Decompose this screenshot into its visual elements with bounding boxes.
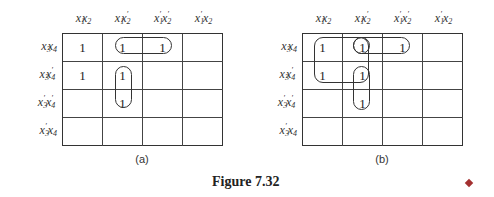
- col-header-1: x1x2′: [102, 10, 142, 26]
- subfigure-label-b: (b): [362, 153, 402, 165]
- col-header-2: x1′x2′: [142, 10, 182, 26]
- cell: [423, 62, 463, 90]
- cell: [143, 118, 183, 146]
- col-header-3: x1′x2: [422, 10, 462, 26]
- cell: 1: [63, 62, 103, 90]
- cell: [63, 90, 103, 118]
- col-header-0: x1x2: [62, 10, 102, 26]
- col-header-1: x1x2′: [342, 10, 382, 26]
- subfigure-label-a: (a): [122, 153, 162, 165]
- row-header-1: x3x4′: [254, 66, 294, 82]
- grouping-loop-single: [353, 37, 370, 54]
- grouping-loop-vertical: [353, 66, 370, 110]
- cell: [183, 34, 223, 62]
- cell: 1: [63, 34, 103, 62]
- figure-caption: Figure 7.32: [212, 174, 279, 190]
- cell: [63, 118, 103, 146]
- cell: [183, 62, 223, 90]
- row-header-2: x3′x4′: [254, 94, 294, 110]
- col-header-3: x1′x2: [182, 10, 222, 26]
- row-header-0: x3x4: [254, 38, 294, 54]
- col-header-0: x1x2: [302, 10, 342, 26]
- cell: [383, 118, 423, 146]
- cell: [383, 90, 423, 118]
- cell: [143, 90, 183, 118]
- row-header-3: x3′x4: [14, 122, 54, 138]
- end-marker-diamond-icon: [465, 179, 473, 187]
- cell: [143, 62, 183, 90]
- cell: [423, 90, 463, 118]
- cell: [423, 34, 463, 62]
- cell: [383, 62, 423, 90]
- col-header-2: x1′x2′: [382, 10, 422, 26]
- row-header-3: x3′x4: [254, 122, 294, 138]
- row-header-2: x3′x4′: [14, 94, 54, 110]
- cell: [303, 90, 343, 118]
- row-header-0: x3x4: [14, 38, 54, 54]
- grouping-loop-vertical: [115, 66, 132, 108]
- cell: [423, 118, 463, 146]
- cell: [183, 118, 223, 146]
- cell: [343, 118, 383, 146]
- grouping-loop-horizontal: [115, 37, 172, 54]
- cell: [103, 118, 143, 146]
- cell: [303, 118, 343, 146]
- row-header-1: x3x4′: [14, 66, 54, 82]
- cell: [183, 90, 223, 118]
